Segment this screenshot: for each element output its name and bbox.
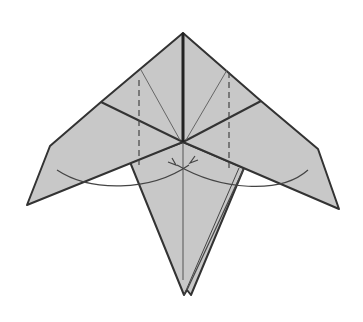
origami-diagram <box>0 0 363 322</box>
lower-body <box>130 142 244 295</box>
